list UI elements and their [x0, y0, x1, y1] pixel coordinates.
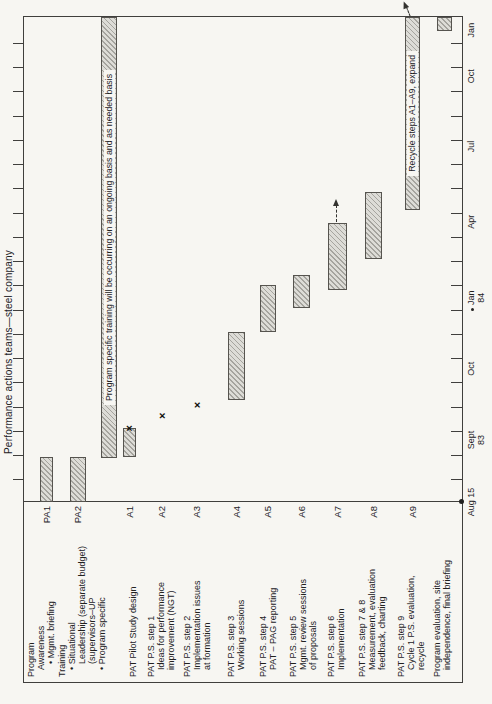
arrow-head [333, 199, 339, 206]
row-id-a2: A2 [156, 506, 167, 556]
task-bar-row2: Program specific training will be occurr… [101, 17, 117, 458]
task-label-line-a4: Working sessions [236, 600, 246, 670]
continuation-arrow-a7 [333, 199, 341, 223]
task-label-line-a2: improvement (NGT) [166, 590, 176, 670]
axis-tick-bottom [451, 164, 463, 165]
label-plot-divider [23, 501, 463, 502]
axis-year-label: 84 [476, 266, 486, 330]
task-label-line-pa2: • Program specific [97, 597, 107, 670]
milestone-x-a3: × [191, 402, 203, 408]
axis-month-label: Apr [466, 190, 476, 254]
row-id-a4: A4 [231, 506, 242, 556]
task-label-line-a5: PAT P.S. step 4 [258, 616, 268, 677]
task-label-line-pa2: • Situational [67, 622, 77, 670]
milestone-x-a2: × [156, 412, 168, 418]
chart-title: Performance actions teams—steel company [3, 0, 14, 704]
axis-year-label: 83 [476, 408, 486, 472]
axis-month-label: Oct [466, 337, 476, 401]
row-id-pa1: PA1 [41, 506, 52, 556]
axis-tick-bottom [451, 140, 463, 141]
axis-tick-top [13, 285, 23, 286]
milestone-x-a1: × [123, 425, 135, 431]
task-label-line-a3: at formation [202, 622, 212, 670]
axis-month-label: Sept83 [466, 408, 486, 472]
axis-tick-top [13, 67, 23, 68]
axis-month-label: Aug 15 [466, 470, 476, 534]
axis-tick-top [13, 261, 23, 262]
axis-tick-bottom [451, 285, 463, 286]
axis-tick-bottom [451, 213, 463, 214]
task-label-line-a6: Mgmt. review sessions [298, 579, 308, 670]
task-label-line-a5: PAT – PAG reporting [268, 588, 278, 670]
task-label-line-row12: independence, final briefing [442, 560, 452, 670]
row-id-pa2: PA2 [72, 506, 83, 556]
axis-tick-top [13, 310, 23, 311]
task-bar-a9: Recycle steps A1–A9, expand [405, 17, 420, 210]
axis-tick-bottom [451, 188, 463, 189]
axis-month-label: Jan84 [466, 266, 486, 330]
axis-tick-top [13, 382, 23, 383]
axis-tick-top [13, 43, 23, 44]
row-id-a7: A7 [332, 506, 343, 556]
task-label-line-pa2: Training [57, 645, 67, 677]
axis-jan84-dot [471, 308, 474, 311]
row-id-a6: A6 [296, 506, 307, 556]
arrow-head [401, 1, 409, 10]
axis-tick-top [13, 334, 23, 335]
task-label-line-pa2: (supervisors–UP [87, 597, 97, 664]
task-bar-a8 [365, 192, 382, 260]
row-id-a3: A3 [191, 506, 202, 556]
task-label-line-pa1: Awareness [36, 626, 46, 670]
task-label-line-a7: Implementation [336, 608, 346, 670]
task-label-line-a4: PAT P.S. step 3 [226, 616, 236, 677]
axis-tick-top [13, 431, 23, 432]
task-label-line-a1: PAT Pilot Study design [128, 586, 138, 677]
axis-tick-bottom [451, 237, 463, 238]
axis-tick-bottom [451, 455, 463, 456]
axis-tick-top [13, 91, 23, 92]
axis-tick-top [13, 358, 23, 359]
row-id-a9: A9 [407, 506, 418, 556]
gantt-chart: Performance actions teams—steel company … [0, 0, 492, 704]
task-bar-a6 [293, 275, 310, 308]
axis-month-label: Jul [466, 115, 476, 179]
task-bar-a7 [328, 223, 347, 290]
task-label-line-pa1: Program [26, 642, 36, 677]
task-label-line-a7: PAT P.S. step 6 [326, 616, 336, 677]
axis-tick-top [13, 407, 23, 408]
task-label-line-a3: PAT P.S. step 2 [182, 616, 192, 677]
arrow-dash [336, 205, 337, 222]
axis-tick-bottom [451, 334, 463, 335]
task-label-line-a6: of proposals [308, 621, 318, 670]
task-label-line-a9: PAT P.S. step 9 [396, 616, 406, 677]
task-label-line-a3: Implementation issues [192, 580, 202, 670]
task-bar-a4 [228, 332, 245, 400]
axis-month-label: Jan [466, 0, 476, 62]
axis-tick-top [13, 237, 23, 238]
axis-tick-top [13, 140, 23, 141]
axis-tick-top [13, 479, 23, 480]
axis-tick-top [13, 455, 23, 456]
axis-tick-bottom [451, 407, 463, 408]
axis-tick-bottom [451, 382, 463, 383]
axis-tick-bottom [451, 91, 463, 92]
task-label-line-a9: Cycle 1 P.S. evaluation, [406, 576, 416, 670]
bar-inline-label: Program specific training will be occurr… [104, 70, 115, 405]
row-id-a8: A8 [368, 506, 379, 556]
axis-tick-bottom [451, 67, 463, 68]
task-label-line-a2: Ideas for performance [156, 582, 166, 670]
task-bar-pa1 [40, 457, 53, 502]
task-label-line-a6: PAT P.S. step 5 [288, 616, 298, 677]
task-bar-a5 [260, 285, 276, 332]
axis-tick-top [13, 213, 23, 214]
axis-tick-top [13, 188, 23, 189]
axis-tick-top [13, 116, 23, 117]
task-label-line-a9: recycle [416, 641, 426, 670]
axis-tick-bottom [451, 431, 463, 432]
axis-tick-bottom [451, 43, 463, 44]
bar-inline-label: Recycle steps A1–A9, expand [407, 51, 418, 176]
axis-tick-bottom [451, 479, 463, 480]
axis-tick-bottom [451, 358, 463, 359]
task-label-line-a2: PAT P.S. step 1 [146, 616, 156, 677]
row-id-a5: A5 [262, 506, 273, 556]
